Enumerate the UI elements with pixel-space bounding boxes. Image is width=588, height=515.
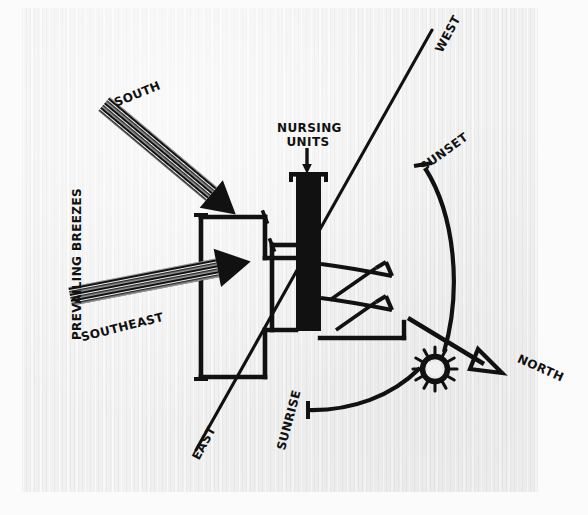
label-nursing-units-line1: NURSING xyxy=(277,122,339,134)
building-east-wing xyxy=(320,322,404,338)
sunrise-arc xyxy=(308,368,420,419)
south-breeze-arrow-icon xyxy=(92,90,247,228)
nursing-units-pointer xyxy=(302,148,312,174)
diagram-page: PREVAILING BREEZES SOUTH SOUTHEAST NURSI… xyxy=(0,0,588,515)
southeast-breeze-arrow-icon xyxy=(66,242,254,315)
sun-icon xyxy=(413,347,457,391)
solar-path-arcs xyxy=(321,262,392,330)
building-footprint xyxy=(196,212,296,379)
site-orientation-drawing xyxy=(0,0,588,515)
label-prevailing-breezes: PREVAILING BREEZES xyxy=(71,184,83,344)
nursing-units-bar xyxy=(289,172,328,331)
label-nursing-units-line2: UNITS xyxy=(277,136,339,148)
